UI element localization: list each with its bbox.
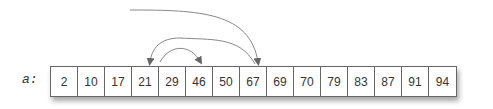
arrow-29-to-46 [160, 48, 200, 62]
array-cell: 21 [132, 67, 159, 96]
array-cell: 69 [267, 67, 294, 96]
arrow-67-to-21 [150, 38, 255, 64]
array-cell: 70 [294, 67, 321, 96]
array-cell: 67 [240, 67, 267, 96]
array-cell: 87 [375, 67, 402, 96]
arrow-long-to-67 [130, 10, 258, 62]
sorted-array: 21017212946506769707983879194 [50, 66, 457, 97]
array-cell: 10 [78, 67, 105, 96]
array-cell: 83 [348, 67, 375, 96]
array-cell: 2 [51, 67, 78, 96]
array-cell: 79 [321, 67, 348, 96]
array-cell: 17 [105, 67, 132, 96]
array-cell: 91 [402, 67, 429, 96]
array-name-label: a: [22, 72, 38, 87]
array-cell: 50 [213, 67, 240, 96]
array-cell: 29 [159, 67, 186, 96]
array-cell: 94 [429, 67, 456, 96]
array-cell: 46 [186, 67, 213, 96]
